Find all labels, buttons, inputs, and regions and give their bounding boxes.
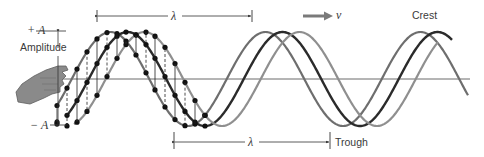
transverse-wave-diagram: + A Amplitude − A λ v Crest λ Trough [0, 0, 484, 157]
plus-a-label: + A [27, 23, 46, 37]
velocity-arrow-icon [303, 12, 333, 21]
minus-a-label: − A [30, 118, 49, 132]
velocity-label: v [336, 8, 342, 22]
amplitude-label: Amplitude [20, 41, 67, 53]
particle-dot [202, 123, 207, 128]
wavelength-top-label: λ [170, 9, 176, 23]
wave-figure: + A Amplitude − A λ v Crest λ Trough [0, 0, 484, 157]
crest-label: Crest [412, 9, 437, 21]
trough-label: Trough [335, 136, 368, 148]
particle-dot [123, 29, 128, 34]
wavelength-bottom-label: λ [247, 135, 253, 149]
